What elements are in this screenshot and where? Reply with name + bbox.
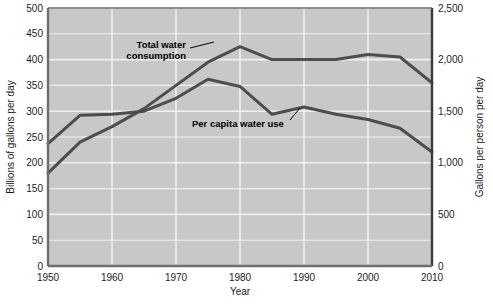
right-tick-label: 2,500 [438,3,463,14]
x-tick-label: 1990 [293,272,316,283]
left-tick-label: 200 [26,157,43,168]
left-tick-label: 350 [26,80,43,91]
annotation-total-line2: consumption [126,50,186,61]
x-tick-label: 1980 [229,272,252,283]
left-tick-label: 0 [37,261,43,272]
x-tick-label: 1950 [37,272,60,283]
left-axis-title: Billions of gallons per day [5,80,16,193]
left-tick-label: 250 [26,132,43,143]
x-axis-title: Year [230,286,251,297]
x-tick-label: 2000 [357,272,380,283]
right-tick-label: 500 [438,209,455,220]
left-tick-label: 50 [32,235,44,246]
left-tick-label: 500 [26,3,43,14]
right-tick-label: 1,000 [438,157,463,168]
left-tick-label: 400 [26,54,43,65]
x-tick-label: 1970 [165,272,188,283]
left-tick-label: 100 [26,209,43,220]
annotation-percapita-line1: Per capita water use [192,118,284,129]
water-use-line-chart: 050100150200250300350400450500 05001,000… [0,0,493,308]
chart-canvas: 050100150200250300350400450500 05001,000… [0,0,493,308]
x-tick-label: 2010 [421,272,444,283]
annotation-total-line1: Total water [137,39,187,50]
right-axis-title: Gallons per person per day [474,77,485,198]
left-tick-label: 450 [26,28,43,39]
right-tick-label: 2,000 [438,54,463,65]
right-tick-label: 1,500 [438,106,463,117]
right-tick-label: 0 [438,261,444,272]
left-tick-label: 300 [26,106,43,117]
x-tick-label: 1960 [101,272,124,283]
left-tick-label: 150 [26,183,43,194]
